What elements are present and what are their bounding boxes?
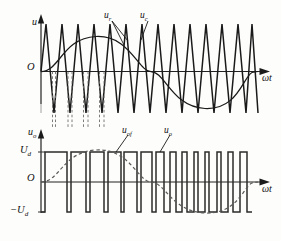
output-voltage-label-sub: o	[169, 130, 172, 137]
top-x-axis-label: ωt	[262, 72, 272, 83]
bottom-x-axis-label: ωt	[262, 183, 272, 194]
carrier-wave-label-sub: c	[145, 15, 148, 22]
bottom-bottom-level-main: −U	[10, 204, 25, 215]
figure-canvas: u O ωt ur uc uo Ud O −Ud ωt uof uo	[0, 0, 281, 241]
top-y-axis	[38, 14, 44, 104]
top-tie-lines	[53, 72, 105, 130]
bottom-y-axis-label-sub: o	[33, 132, 36, 139]
waveform-svg	[0, 0, 281, 241]
output-voltage-label: uo	[164, 125, 172, 137]
bottom-top-level-label: Ud	[20, 144, 31, 158]
top-y-axis-label: u	[32, 16, 37, 27]
output-fundamental-label-sub: of	[127, 130, 132, 137]
bottom-y-axis-label: uo	[28, 126, 36, 139]
reference-wave-label-sub: r	[109, 15, 112, 22]
bottom-y-axis	[38, 129, 44, 213]
bottom-top-level-sub: d	[28, 150, 32, 158]
bottom-panel	[38, 129, 270, 213]
carrier-triangle-wave	[41, 24, 258, 113]
top-panel	[38, 14, 270, 129]
reference-wave-label: ur	[104, 10, 111, 22]
top-origin-label: O	[27, 61, 35, 72]
bottom-top-level-main: U	[20, 144, 28, 155]
carrier-wave-label: uc	[140, 10, 148, 22]
bottom-bottom-level-label: −Ud	[10, 204, 28, 218]
bottom-origin-label: O	[27, 172, 35, 183]
top-x-axis	[41, 68, 270, 75]
output-fundamental-label: uof	[122, 125, 132, 137]
bottom-label-leaders	[116, 135, 170, 152]
bottom-bottom-level-sub: d	[25, 210, 29, 218]
